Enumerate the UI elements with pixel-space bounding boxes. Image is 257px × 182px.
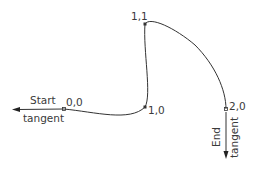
end-tangent-label-line2: tangent (228, 117, 240, 158)
point-marker-1-0 (144, 106, 147, 109)
start-tangent-label-line2: tangent (23, 112, 64, 124)
start-tangent-line (18, 109, 64, 110)
point-marker-1-1 (144, 23, 147, 26)
start-tangent-arrowhead-icon (12, 107, 20, 112)
point-label-1-0: 1,0 (148, 104, 165, 116)
start-tangent-label-line1: Start (30, 94, 56, 106)
spline-diagram: 0,0 1,0 1,1 2,0 Start tangent End tangen… (0, 0, 257, 182)
point-label-2-0: 2,0 (229, 100, 246, 112)
spline-curve (64, 21, 226, 115)
point-label-0-0: 0,0 (66, 96, 83, 108)
end-tangent-label-line1: End (210, 127, 222, 147)
point-label-1-1: 1,1 (131, 10, 148, 22)
